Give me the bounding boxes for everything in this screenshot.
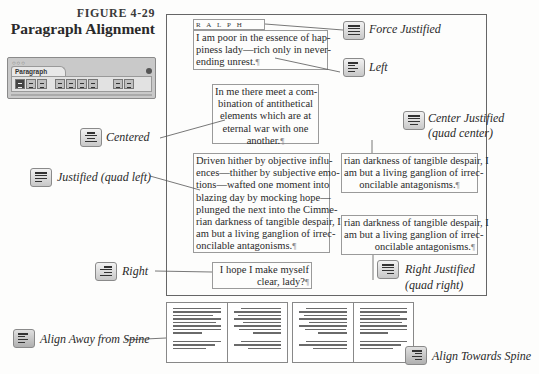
align-right-icon <box>95 262 117 281</box>
label-align-towards-spine: Align Towards Spine <box>432 349 531 364</box>
justify-center-button[interactable] <box>66 79 76 89</box>
left-aligned-textbox: I am poor in the essence of hap- piness … <box>193 30 328 70</box>
page-right <box>227 303 288 362</box>
paragraph-palette: ○○○ Paragraph <box>7 57 156 99</box>
align-center-button[interactable] <box>26 79 36 89</box>
label-right: Right <box>122 264 148 279</box>
right-justified-textbox: rian darkness of tangible despair, I am … <box>341 215 478 255</box>
justify-left-button[interactable] <box>55 79 65 89</box>
label-right-justified: Right Justified <box>405 262 475 277</box>
label-center-justified: Center Justified <box>428 111 504 126</box>
align-left-button[interactable] <box>15 79 25 89</box>
palette-title: Paragraph <box>15 68 47 75</box>
figure-number: FIGURE 4-29 <box>40 6 155 21</box>
label-justified-quad-left: Justified (quad left) <box>57 170 151 185</box>
center-justified-textbox: rian darkness of tangible despair, I am … <box>341 153 478 193</box>
right-aligned-textbox: I hope I make myself clear, lady?¶ <box>212 262 312 289</box>
force-justified-heading: RALPH <box>193 19 265 30</box>
align-towards-spine-icon <box>405 346 427 365</box>
page-right <box>353 303 414 362</box>
page-left <box>293 303 353 362</box>
palette-footer <box>11 94 152 96</box>
justify-center-icon <box>403 111 425 130</box>
align-center-icon <box>80 128 102 147</box>
label-center-justified-sub: (quad center) <box>428 126 493 141</box>
label-align-away-from-spine: Align Away from Spine <box>40 332 150 347</box>
spread-towards-spine <box>292 302 414 363</box>
palette-menu-icon[interactable] <box>146 68 152 74</box>
centered-textbox: In me there meet a com- bination of anti… <box>212 84 319 144</box>
align-right-button[interactable] <box>37 79 47 89</box>
palette-tab[interactable]: Paragraph <box>11 66 66 76</box>
justify-right-button[interactable] <box>77 79 87 89</box>
label-right-justified-sub: (quad right) <box>405 278 463 293</box>
justify-right-icon <box>377 260 399 279</box>
align-left-icon <box>343 58 365 77</box>
justify-all-button[interactable] <box>88 79 98 89</box>
label-left: Left <box>369 60 388 75</box>
justify-left-icon <box>30 168 52 187</box>
label-centered: Centered <box>106 130 150 145</box>
page-left <box>167 303 227 362</box>
spread-away-from-spine <box>166 302 288 363</box>
label-force-justified: Force Justified <box>369 22 441 37</box>
align-towards-spine-button[interactable] <box>113 79 123 89</box>
alignment-button-bar <box>11 76 152 92</box>
force-justify-icon <box>343 21 365 40</box>
align-away-from-spine-button[interactable] <box>124 79 134 89</box>
align-away-from-spine-icon <box>13 329 35 348</box>
figure-title: Paragraph Alignment <box>10 20 155 38</box>
justified-textbox: Driven hither by objective influ- ences—… <box>193 153 330 253</box>
